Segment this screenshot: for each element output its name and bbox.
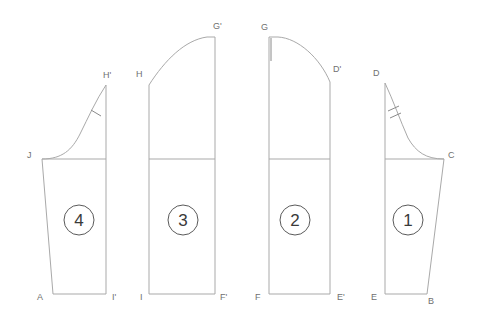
- label-d-prime: D': [333, 64, 341, 74]
- label-e-prime: E': [337, 292, 345, 302]
- label-b: B: [428, 296, 434, 306]
- piece-1: 1 D C E B: [371, 68, 455, 306]
- piece-3: 3 H G' I F': [136, 21, 227, 302]
- piece-2: 2 G D' F E': [255, 22, 345, 302]
- piece-2-number: 2: [290, 211, 299, 230]
- piece-1-number: 1: [403, 211, 412, 230]
- label-i: I: [140, 292, 143, 302]
- label-c: C: [448, 150, 455, 160]
- label-h-prime: H': [103, 70, 111, 80]
- label-a: A: [37, 292, 43, 302]
- label-f: F: [255, 292, 261, 302]
- label-j: J: [27, 150, 32, 160]
- label-d: D: [373, 68, 380, 78]
- piece-4-outline: [42, 85, 106, 294]
- pattern-diagram: 4 H' J A I' 3 H G' I F' 2 G D' F E' 1 D …: [0, 0, 477, 316]
- piece-4-notch: [91, 110, 101, 116]
- piece-1-notch-a: [388, 106, 399, 111]
- piece-3-number: 3: [178, 211, 187, 230]
- piece-2-outline: [269, 37, 330, 294]
- piece-4: 4 H' J A I': [27, 70, 117, 302]
- piece-1-outline: [385, 83, 444, 294]
- label-h: H: [136, 69, 143, 79]
- label-f-prime: F': [220, 292, 227, 302]
- label-e: E: [371, 292, 377, 302]
- label-g: G: [261, 22, 268, 32]
- label-i-prime: I': [112, 292, 117, 302]
- piece-3-outline: [149, 37, 215, 294]
- piece-4-number: 4: [74, 211, 83, 230]
- label-g-prime: G': [213, 21, 222, 31]
